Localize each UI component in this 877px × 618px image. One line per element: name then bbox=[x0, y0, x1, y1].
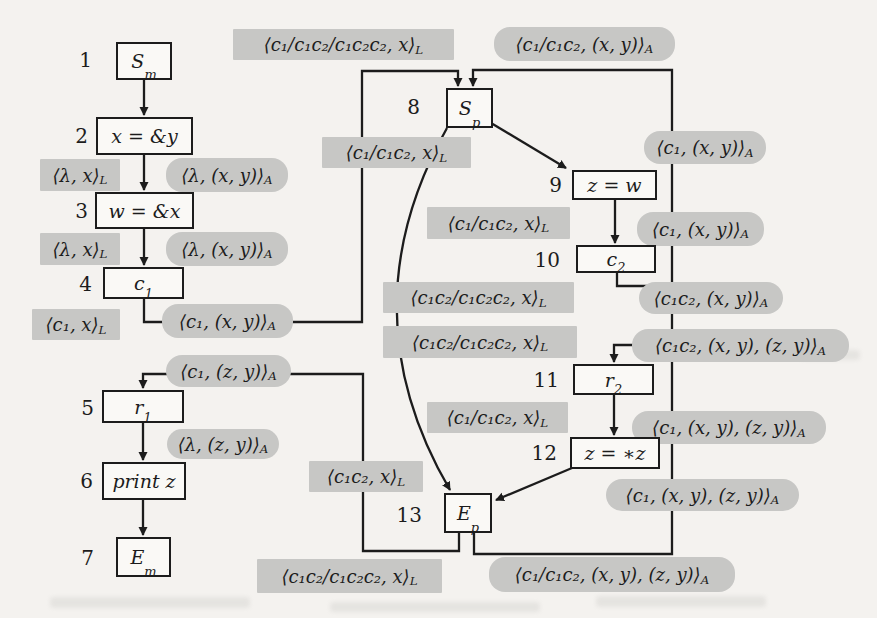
node-number-2: 2 bbox=[58, 124, 88, 148]
fact-between-11-12: ⟨c₁, (x, y), (z, y)⟩A bbox=[632, 411, 826, 444]
fact-left-of-ep: ⟨c₁c₂, x⟩L bbox=[309, 461, 423, 492]
node-label: c bbox=[607, 248, 618, 270]
fact-bottom-right: ⟨c₁/c₁c₂, (x, y), (z, y)⟩A bbox=[489, 557, 735, 592]
node-subscript: 2 bbox=[614, 382, 622, 397]
fact-subscript: A bbox=[760, 296, 769, 310]
fact-subscript: L bbox=[99, 323, 107, 337]
fact-below-3-left: ⟨λ, x⟩L bbox=[40, 233, 120, 265]
node-box-Ep: Ep bbox=[444, 493, 492, 533]
node-label: S bbox=[459, 97, 472, 119]
node-number-5: 5 bbox=[64, 396, 94, 420]
node-label: z = ∗z bbox=[585, 442, 646, 464]
node-box-x-eq-addr-y: x = &y bbox=[96, 117, 193, 155]
node-subscript: 1 bbox=[145, 286, 153, 301]
fact-subscript: L bbox=[410, 574, 418, 588]
node-subscript: m bbox=[144, 564, 156, 579]
node-label: E bbox=[457, 502, 471, 524]
fact-text: ⟨c₁c₂, (x, y), (z, y)⟩ bbox=[655, 335, 817, 356]
fact-below-3-right: ⟨λ, (x, y)⟩A bbox=[166, 232, 288, 266]
fact-right-of-sp: ⟨c₁, (x, y)⟩A bbox=[644, 131, 766, 164]
node-label: w = &x bbox=[109, 200, 181, 222]
node-box-c2: c2 bbox=[576, 245, 656, 273]
fact-subscript: A bbox=[264, 247, 273, 261]
fact-subscript: A bbox=[741, 227, 750, 241]
fact-subscript: A bbox=[268, 319, 277, 333]
fact-subscript: A bbox=[771, 493, 780, 507]
node-number-11: 11 bbox=[529, 368, 559, 392]
node-subscript: 1 bbox=[143, 410, 151, 425]
node-number-4: 4 bbox=[62, 272, 92, 296]
node-box-print-z: print z bbox=[102, 462, 186, 500]
fact-text: ⟨λ, x⟩ bbox=[53, 165, 100, 186]
node-box-w-eq-addr-x: w = &x bbox=[95, 192, 194, 229]
cfg-figure: ⟨λ, x⟩L ⟨λ, (x, y)⟩A ⟨λ, x⟩L ⟨λ, (x, y)⟩… bbox=[0, 0, 877, 618]
fact-subscript: A bbox=[797, 426, 806, 440]
fact-subscript: A bbox=[645, 42, 654, 56]
node-number-1: 1 bbox=[62, 48, 92, 72]
fact-into-r2: ⟨c₁c₂, (x, y), (z, y)⟩A bbox=[632, 329, 849, 362]
node-box-r1: r1 bbox=[102, 390, 184, 423]
node-number-3: 3 bbox=[58, 199, 88, 223]
node-label: r bbox=[605, 369, 614, 391]
fact-text: ⟨c₁, (x, y), (z, y)⟩ bbox=[652, 417, 797, 438]
fact-text: ⟨λ, (x, y)⟩ bbox=[181, 239, 264, 260]
fact-top-left-into-sp: ⟨c₁/c₁c₂/c₁c₂c₂, x⟩L bbox=[233, 29, 454, 60]
node-subscript: m bbox=[144, 67, 156, 82]
fact-text: ⟨c₁/c₁c₂, (x, y), (z, y)⟩ bbox=[515, 564, 701, 585]
fact-mid-1: ⟨c₁c₂/c₁c₂c₂, x⟩L bbox=[383, 282, 574, 313]
fact-text: ⟨c₁c₂/c₁c₂c₂, x⟩ bbox=[281, 566, 409, 587]
node-box-r2: r2 bbox=[573, 364, 654, 395]
fact-subscript: L bbox=[541, 221, 549, 235]
fact-below-2-right: ⟨λ, (x, y)⟩A bbox=[166, 158, 288, 192]
node-label: E bbox=[130, 546, 144, 568]
fact-subscript: L bbox=[540, 416, 548, 430]
edge-sp-to-9 bbox=[491, 123, 566, 168]
fact-subscript: L bbox=[100, 247, 108, 261]
fact-subscript: L bbox=[539, 296, 547, 310]
fact-subscript: L bbox=[100, 173, 108, 187]
node-subscript: 2 bbox=[617, 260, 625, 275]
node-box-z-eq-w: z = w bbox=[572, 170, 657, 200]
fact-text: ⟨c₁, (x, y)⟩ bbox=[652, 219, 741, 240]
fact-text: ⟨c₁, (x, y)⟩ bbox=[656, 137, 745, 158]
node-number-7: 7 bbox=[64, 546, 94, 570]
fact-above-ep: ⟨c₁/c₁c₂, x⟩L bbox=[427, 402, 568, 433]
fact-subscript: A bbox=[817, 344, 826, 358]
fact-text: ⟨c₁c₂/c₁c₂c₂, x⟩ bbox=[412, 332, 540, 353]
node-label: x = &y bbox=[111, 125, 177, 147]
fact-text: ⟨c₁, (x, y), (z, y)⟩ bbox=[626, 485, 771, 506]
fact-subscript: A bbox=[745, 146, 754, 160]
fact-below-r1: ⟨λ, (z, y)⟩A bbox=[167, 429, 279, 459]
fact-text: ⟨c₁/c₁c₂/c₁c₂c₂, x⟩ bbox=[264, 34, 416, 55]
fact-subscript: A bbox=[260, 442, 269, 456]
node-label: S bbox=[131, 50, 144, 72]
node-label: c bbox=[134, 272, 145, 294]
fact-below-c1-left: ⟨c₁, x⟩L bbox=[32, 309, 120, 340]
fact-text: ⟨c₁/c₁c₂, x⟩ bbox=[447, 407, 541, 428]
fact-text: ⟨c₁c₂/c₁c₂c₂, x⟩ bbox=[410, 287, 538, 308]
node-box-Sm: Sm bbox=[116, 42, 172, 80]
fact-c1-call-edge: ⟨c₁, (x, y)⟩A bbox=[162, 304, 293, 338]
fact-text: ⟨c₁, (z, y)⟩ bbox=[180, 361, 268, 382]
fact-text: ⟨λ, x⟩ bbox=[53, 239, 100, 260]
fact-subscript: A bbox=[701, 573, 710, 587]
node-box-z-eq-star-z: z = ∗z bbox=[570, 437, 660, 469]
fact-on-curve-upper: ⟨c₁/c₁c₂, x⟩L bbox=[427, 207, 570, 239]
fact-mid-2: ⟨c₁c₂/c₁c₂c₂, x⟩L bbox=[383, 326, 577, 358]
fact-text: ⟨c₁c₂, x⟩ bbox=[327, 466, 397, 487]
fact-text: ⟨c₁/c₁c₂, x⟩ bbox=[346, 142, 440, 163]
node-subscript: p bbox=[472, 115, 480, 130]
fact-text: ⟨c₁, x⟩ bbox=[46, 314, 99, 335]
fact-text: ⟨c₁/c₁c₂, x⟩ bbox=[448, 213, 542, 234]
fact-subscript: L bbox=[439, 151, 447, 165]
fact-subscript: L bbox=[415, 43, 423, 57]
fact-into-r1: ⟨c₁, (z, y)⟩A bbox=[166, 355, 291, 387]
fact-text: ⟨c₁/c₁c₂, (x, y)⟩ bbox=[516, 34, 645, 55]
fact-text: ⟨λ, (z, y)⟩ bbox=[178, 434, 260, 455]
node-number-6: 6 bbox=[63, 469, 93, 493]
node-box-c1: c1 bbox=[103, 267, 184, 299]
fact-below-sp: ⟨c₁/c₁c₂, x⟩L bbox=[322, 137, 471, 168]
fact-text: ⟨λ, (x, y)⟩ bbox=[181, 165, 264, 186]
fact-text: ⟨c₁c₂, (x, y)⟩ bbox=[654, 288, 760, 309]
fact-top-right-into-sp: ⟨c₁/c₁c₂, (x, y)⟩A bbox=[494, 27, 675, 61]
